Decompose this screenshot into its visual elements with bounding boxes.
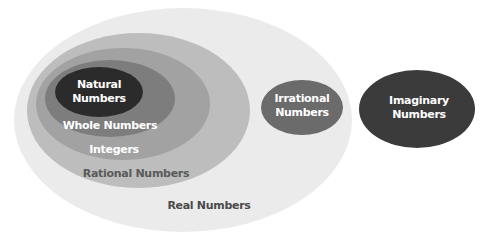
imaginary-label-line1: Imaginary (389, 94, 449, 108)
imaginary-label-line2: Numbers (389, 108, 449, 122)
imaginary-numbers-label: Imaginary Numbers (389, 94, 449, 122)
irrational-label-line1: Irrational (275, 92, 330, 106)
real-numbers-label: Real Numbers (167, 199, 250, 213)
irrational-label-line2: Numbers (275, 106, 330, 120)
integers-label: Integers (89, 143, 139, 157)
rational-numbers-label: Rational Numbers (83, 167, 189, 181)
natural-label-line2: Numbers (72, 92, 126, 106)
natural-numbers-label: Natural Numbers (72, 78, 126, 106)
irrational-numbers-label: Irrational Numbers (275, 92, 330, 120)
whole-numbers-label: Whole Numbers (63, 119, 158, 133)
natural-label-line1: Natural (72, 78, 126, 92)
